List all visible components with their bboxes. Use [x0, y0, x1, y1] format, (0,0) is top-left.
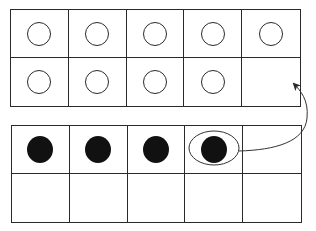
top-frame-cell — [11, 10, 69, 58]
empty-counter-icon — [201, 22, 225, 46]
bottom-ten-frame — [11, 125, 302, 223]
empty-counter-icon — [85, 22, 109, 46]
top-frame-cell — [127, 58, 185, 106]
filled-counter-icon — [201, 136, 227, 163]
bottom-frame-cell — [128, 126, 186, 174]
bottom-frame-cell — [12, 174, 70, 222]
top-ten-frame — [10, 9, 301, 107]
top-frame-cell — [127, 10, 185, 58]
filled-counter-icon — [27, 136, 53, 163]
top-frame-cell — [184, 10, 242, 58]
top-frame-cell — [242, 10, 300, 58]
bottom-frame-cell — [70, 174, 128, 222]
top-frame-cell — [69, 10, 127, 58]
top-frame-cell — [69, 58, 127, 106]
filled-counter-icon — [85, 136, 111, 163]
bottom-frame-cell — [12, 126, 70, 174]
empty-counter-icon — [143, 70, 167, 94]
empty-counter-icon — [85, 70, 109, 94]
top-frame-cell — [11, 58, 69, 106]
bottom-frame-cell — [70, 126, 128, 174]
bottom-frame-cell — [243, 126, 301, 174]
filled-counter-icon — [143, 136, 169, 163]
bottom-frame-cell — [185, 126, 243, 174]
empty-counter-icon — [143, 22, 167, 46]
bottom-frame-cell — [128, 174, 186, 222]
top-frame-cell — [184, 58, 242, 106]
top-frame-cell — [242, 58, 300, 106]
empty-counter-icon — [27, 70, 51, 94]
empty-counter-icon — [259, 22, 283, 46]
bottom-frame-cell — [243, 174, 301, 222]
empty-counter-icon — [201, 70, 225, 94]
bottom-frame-cell — [185, 174, 243, 222]
empty-counter-icon — [27, 22, 51, 46]
